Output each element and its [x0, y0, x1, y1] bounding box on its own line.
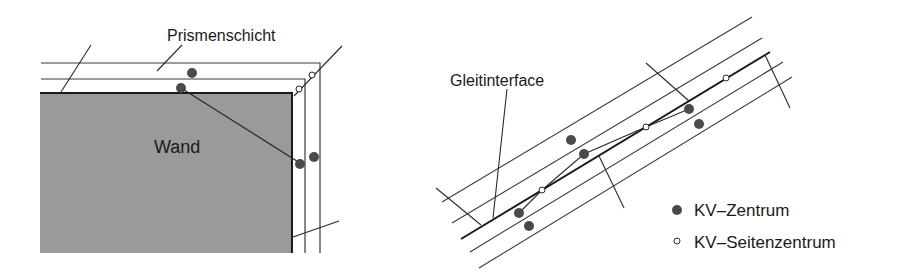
cv-face-center-dot — [296, 86, 302, 92]
sliding-interface-diagram: Gleitinterface — [436, 17, 792, 268]
cv-connection-path — [519, 109, 689, 213]
cross-line-upper — [646, 63, 689, 101]
wall-block — [40, 93, 292, 253]
cv-center-dot — [514, 208, 524, 218]
wall-label: Wand — [154, 137, 200, 157]
prismenschicht-label: Prismenschicht — [167, 27, 276, 44]
cv-face-center-dot — [539, 187, 545, 193]
layer-line-2 — [452, 38, 762, 223]
cv-face-center-dot — [723, 75, 729, 81]
wall-corner-diagram: Prismenschicht Wand — [40, 27, 342, 253]
legend-filled-circle-icon — [672, 205, 682, 215]
cv-center-dot — [176, 83, 186, 93]
legend-open-circle-icon — [674, 238, 680, 244]
leader-left-top — [61, 45, 91, 92]
legend: KV–Zentrum KV–Seitenzentrum — [672, 201, 836, 252]
gleitinterface-label: Gleitinterface — [450, 72, 544, 89]
diagram-canvas: Prismenschicht Wand Gleitinterface — [0, 0, 910, 276]
cv-face-center-dot — [309, 72, 315, 78]
cv-center-dot — [579, 149, 589, 159]
cv-center-dot — [684, 104, 694, 114]
cv-center-dot — [187, 68, 197, 78]
cv-center-dot — [566, 135, 576, 145]
legend-label-cv-face-center: KV–Seitenzentrum — [694, 233, 836, 252]
leader-gleitinterface — [493, 89, 507, 218]
cv-face-center-dot — [643, 124, 649, 130]
cross-line-right — [765, 55, 790, 108]
cv-center-dot — [309, 152, 319, 162]
leader-prismenschicht — [157, 45, 182, 71]
cv-center-dot — [295, 159, 305, 169]
cv-center-dot — [524, 221, 534, 231]
cv-center-dot — [694, 119, 704, 129]
legend-label-cv-center: KV–Zentrum — [694, 201, 789, 220]
leader-right-bottom — [293, 221, 339, 237]
